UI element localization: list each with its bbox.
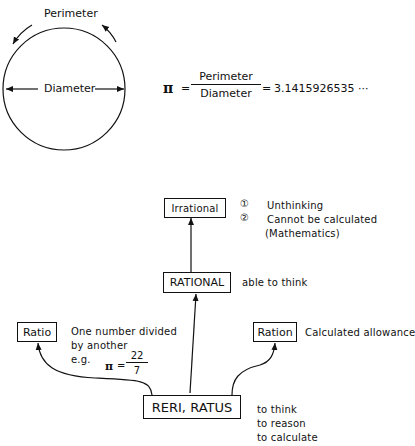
root-meaning-2: to reason (257, 418, 306, 429)
ratio-note-line-3: e.g. (71, 354, 91, 365)
irrational-note-1: Unthinking (267, 200, 323, 211)
ration-label: Ration (257, 326, 292, 339)
irrational-label: Irrational (171, 203, 218, 214)
arrow-root-to-ration (232, 343, 275, 395)
ratio-example-fraction: 22 7 (126, 350, 148, 376)
rational-box: RATIONAL (163, 272, 231, 293)
pi-value: 3.1415926535 ··· (274, 82, 368, 95)
perimeter-label: Perimeter (44, 7, 98, 20)
rational-note: able to think (242, 277, 308, 288)
fraction-denominator: Diameter (191, 85, 261, 100)
equals-sign-2: = (262, 82, 271, 95)
irrational-note-1-marker: ① (240, 198, 249, 209)
ratio-example-numerator: 22 (126, 350, 148, 363)
root-meaning-3: to calculate (257, 432, 318, 443)
root-label: RERI, RATUS (152, 400, 232, 415)
ration-box: Ration (253, 322, 297, 342)
perimeter-arrow-left-icon (13, 25, 32, 44)
ratio-box: Ratio (17, 322, 57, 342)
rational-label: RATIONAL (170, 276, 224, 289)
pi-fraction: Perimeter Diameter (191, 70, 261, 100)
root-box: RERI, RATUS (143, 395, 241, 419)
root-meaning-1: to think (257, 404, 297, 415)
equals-sign: = (181, 82, 190, 95)
ratio-example-equals: = (117, 360, 126, 371)
ratio-label: Ratio (23, 326, 51, 339)
irrational-note-2-marker: ② (240, 212, 249, 223)
ratio-note-line-2: by another (71, 340, 128, 351)
ratio-note-line-1: One number divided (71, 326, 177, 337)
fraction-numerator: Perimeter (191, 70, 261, 85)
diameter-label: Diameter (44, 82, 95, 95)
ration-note: Calculated allowance (305, 327, 415, 338)
irrational-note-2: Cannot be calculated (267, 214, 377, 225)
arrow-root-to-rational (190, 294, 196, 393)
ratio-example-denominator: 7 (126, 363, 148, 376)
irrational-note-3: (Mathematics) (265, 228, 340, 239)
pi-symbol: π (163, 80, 173, 96)
perimeter-arrow-right-icon (102, 25, 116, 42)
irrational-box: Irrational (164, 198, 226, 218)
ratio-example-pi: π (105, 360, 113, 373)
